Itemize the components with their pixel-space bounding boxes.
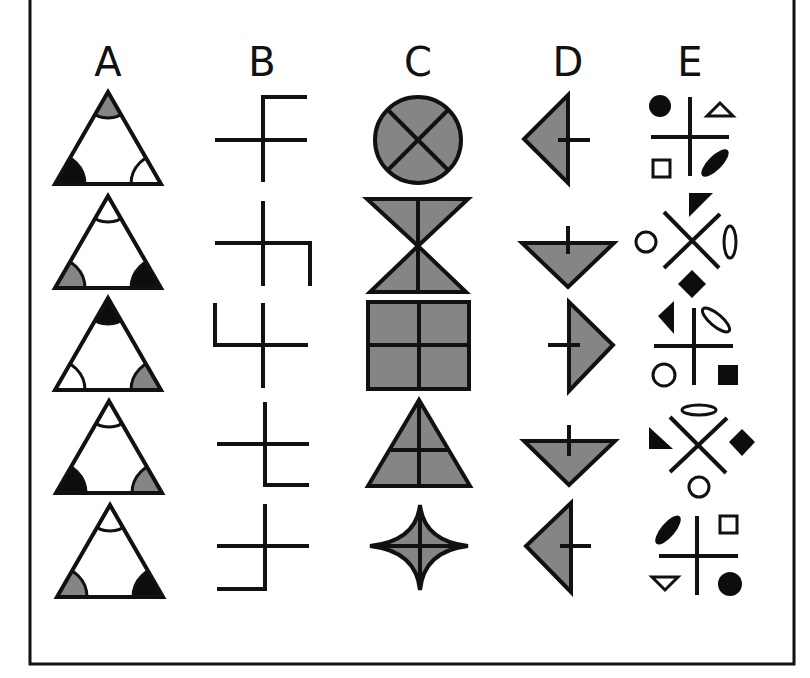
d-row1-triangle-icon [524,95,590,183]
column-label-b: B [248,39,275,85]
a-row1-triangle-icon [25,66,191,214]
filled-circle-icon [649,95,671,117]
d-row2-triangle-icon [522,226,614,287]
a-row3-triangle-icon [25,272,191,420]
b-row2-cross-icon [215,201,310,286]
open-circle-icon [636,232,656,252]
open-circle-icon [689,477,709,497]
column-label-e: E [677,39,702,85]
filled-diamond-icon [729,429,755,456]
filled-triangle-icon [658,301,674,334]
open-square-icon [653,160,670,177]
d-row5-triangle-icon [526,503,591,592]
c-row4-triangle-icon [368,400,470,486]
open-ellipse-icon [724,226,736,258]
e-row2-symbol-cross-icon [636,193,736,298]
c-row2-hourglass-icon [367,199,468,292]
filled-triangle-icon [689,193,713,217]
b-row3-cross-icon [215,303,308,388]
open-ellipse-icon [682,405,716,415]
a-row4-triangle-icon [26,375,192,523]
filled-ellipse-icon [697,145,732,180]
b-row1-cross-icon [215,97,307,182]
open-ellipse-icon [699,304,733,335]
puzzle-figure: A B C D E [0,0,810,678]
filled-triangle-icon [649,427,673,449]
column-label-c: C [404,39,432,85]
d-row3-triangle-icon [548,302,613,391]
b-row4-cross-icon [217,402,309,485]
open-circle-icon [653,364,675,386]
c-row1-circle-icon [375,97,461,183]
b-row5-cross-icon [217,504,309,589]
a-row5-triangle-icon [27,479,193,627]
column-label-a: A [94,39,122,85]
open-triangle-icon [652,577,678,590]
e-row5-symbol-cross-icon [651,512,742,596]
filled-ellipse-icon [651,512,685,549]
filled-diamond-icon [678,270,706,298]
open-square-icon [720,516,737,533]
filled-square-icon [718,365,738,385]
column-label-d: D [553,39,584,85]
e-row3-symbol-cross-icon [653,301,738,386]
c-row5-star-icon [370,505,468,590]
e-row4-symbol-cross-icon [649,405,755,497]
e-row1-symbol-cross-icon [649,95,733,181]
c-row3-square-icon [368,302,469,389]
filled-circle-icon [718,572,742,596]
d-row4-triangle-icon [524,425,615,485]
open-triangle-icon [707,103,733,116]
